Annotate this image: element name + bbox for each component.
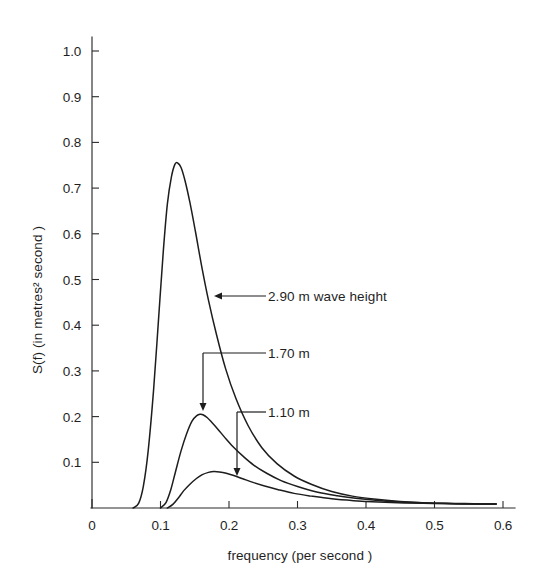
y-tick-label: 0.9	[63, 90, 81, 105]
spectrum-curve	[133, 163, 496, 508]
y-tick-label: 0.1	[63, 455, 81, 470]
curve-annotations: 2.90 m wave height1.70 m1.10 m	[200, 289, 388, 476]
figure-root: 0.10.20.30.40.50.60.70.80.91.0 00.10.20.…	[0, 0, 540, 584]
wave-spectrum-chart: 0.10.20.30.40.50.60.70.80.91.0 00.10.20.…	[0, 0, 540, 584]
y-axis-title: S(f) (in metres² second )	[30, 226, 45, 374]
annotation-group: 1.70 m	[200, 346, 310, 411]
y-tick-label: 0.7	[63, 181, 81, 196]
x-tick-label: 0.1	[151, 518, 169, 533]
spectrum-curves	[133, 163, 496, 508]
annotation-group: 2.90 m wave height	[214, 289, 387, 304]
annotation-group: 1.10 m	[234, 405, 310, 476]
x-tick-label: 0.6	[494, 518, 512, 533]
annotation-label: 1.70 m	[268, 346, 310, 361]
annotation-arrowhead	[234, 468, 241, 476]
x-tick-label: 0.2	[220, 518, 238, 533]
y-tick-label: 0.3	[63, 364, 81, 379]
annotation-label: 2.90 m wave height	[268, 289, 387, 304]
x-axis-title: frequency (per second )	[228, 548, 373, 563]
y-tick-label: 0.4	[63, 318, 82, 333]
y-axis: 0.10.20.30.40.50.60.70.80.91.0	[63, 37, 99, 508]
annotation-arrowhead	[214, 293, 222, 300]
annotation-arrowhead	[200, 403, 207, 411]
x-tick-label: 0.3	[288, 518, 306, 533]
annotation-label: 1.10 m	[268, 405, 310, 420]
x-tick-label: 0.4	[357, 518, 376, 533]
y-tick-label: 0.6	[63, 227, 81, 242]
y-tick-label: 0.2	[63, 410, 81, 425]
y-tick-label: 0.5	[63, 273, 81, 288]
x-tick-label: 0.5	[425, 518, 443, 533]
x-tick-label: 0	[88, 518, 95, 533]
y-tick-label: 0.8	[63, 135, 81, 150]
spectrum-curve	[161, 414, 497, 508]
spectrum-curve	[167, 471, 496, 508]
y-tick-label: 1.0	[63, 44, 81, 59]
